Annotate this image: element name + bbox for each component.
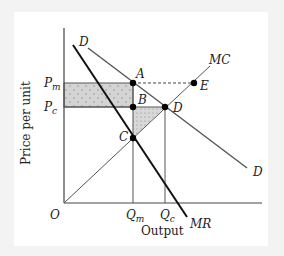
x-axis-title: Output xyxy=(141,224,184,238)
point-b-label: B xyxy=(137,93,147,107)
point-d-marker xyxy=(162,104,168,110)
point-c-marker xyxy=(130,135,136,141)
qc-label: Qc xyxy=(160,208,175,224)
monopoly-diagram: A B C D E D D MC MR Pm Pc Qm Qc O Output… xyxy=(0,0,284,256)
point-e-marker xyxy=(191,80,197,86)
monopoly-profit-rectangle xyxy=(64,83,133,107)
point-e-label: E xyxy=(199,79,209,93)
y-axis-title: Price per unit xyxy=(19,81,33,165)
demand-top-label: D xyxy=(78,35,89,49)
pm-label: Pm xyxy=(43,76,61,92)
point-b-marker xyxy=(130,104,136,110)
demand-bottom-label: D xyxy=(252,165,263,179)
mc-label: MC xyxy=(208,53,230,67)
qm-label: Qm xyxy=(126,208,144,224)
origin-label: O xyxy=(50,208,60,222)
point-d-label: D xyxy=(172,101,183,115)
mr-label: MR xyxy=(189,217,211,231)
point-c-label: C xyxy=(119,130,128,144)
pc-label: Pc xyxy=(43,100,57,116)
mr-curve xyxy=(73,45,187,217)
point-a-label: A xyxy=(135,67,145,81)
